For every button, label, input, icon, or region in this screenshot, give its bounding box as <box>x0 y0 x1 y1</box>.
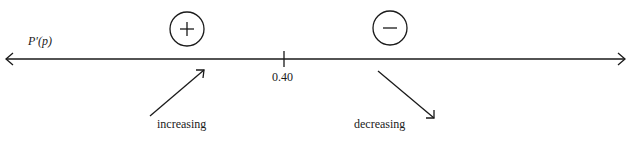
increasing-label: increasing <box>157 117 206 132</box>
minus-circle-icon <box>373 11 407 45</box>
plus-circle-icon <box>170 12 204 46</box>
decreasing-arrow-icon <box>378 71 434 118</box>
decreasing-label: decreasing <box>354 117 405 132</box>
increasing-arrow-icon <box>150 70 204 116</box>
function-label: P′(p) <box>28 34 52 49</box>
critical-value-label: 0.40 <box>272 70 293 85</box>
sign-chart <box>0 0 631 141</box>
number-line <box>6 51 625 67</box>
